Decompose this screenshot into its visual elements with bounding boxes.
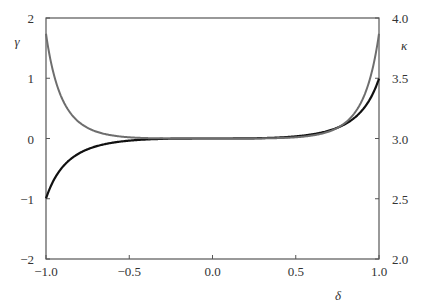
- y-tick-label: 0: [28, 132, 35, 147]
- x-tick-label: 0.0: [204, 264, 220, 279]
- chart: −1.0−0.50.00.51.0210−1−24.03.53.02.52.0 …: [0, 0, 427, 308]
- tick-labels: −1.0−0.50.00.51.0210−1−24.03.53.02.52.0: [20, 11, 408, 279]
- y-tick-label: 2: [28, 11, 35, 26]
- y2-tick-label: 3.5: [392, 71, 408, 86]
- y2-tick-label: 2.5: [392, 192, 408, 207]
- x-axis-label: δ: [335, 288, 342, 303]
- y-tick-label: 1: [28, 71, 35, 86]
- y2-axis-label: κ: [401, 38, 408, 53]
- x-tick-label: 0.5: [288, 264, 304, 279]
- kurtosis-curve: [46, 34, 379, 139]
- x-tick-label: −1.0: [34, 264, 58, 279]
- y-tick-label: −1: [20, 192, 34, 207]
- data-series: [46, 34, 379, 199]
- x-tick-label: −0.5: [117, 264, 141, 279]
- y-axis-label: γ: [14, 34, 20, 49]
- x-tick-label: 1.0: [371, 264, 387, 279]
- y-tick-label: −2: [20, 252, 34, 267]
- y2-tick-label: 4.0: [392, 11, 408, 26]
- y2-tick-label: 3.0: [392, 132, 408, 147]
- y2-tick-label: 2.0: [392, 252, 408, 267]
